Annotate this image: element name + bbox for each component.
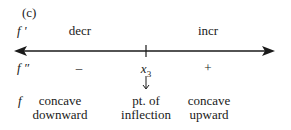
inflection-point-label: pt. of inflection (121, 94, 171, 122)
f-double-prime-left-sign: – (76, 61, 83, 75)
concave-upward-label: concave upward (188, 94, 231, 122)
concave-downward-label: concave downward (33, 94, 88, 122)
x3-label: x3 (141, 62, 151, 81)
f-double-prime-right-sign: + (204, 61, 211, 75)
f-double-prime-symbol: f ″ (17, 61, 29, 75)
f-symbol: f (18, 94, 22, 108)
